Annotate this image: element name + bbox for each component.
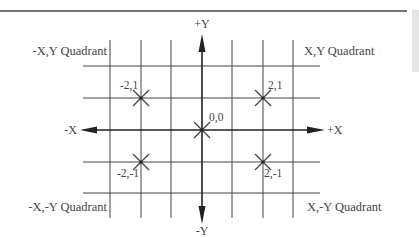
point-label: -2,-1 <box>117 167 139 180</box>
coordinate-diagram: +Y -Y -X +X -X,Y Quadrant X,Y Quadrant -… <box>0 0 419 238</box>
quadrant-label-top-left: -X,Y Quadrant <box>32 44 107 58</box>
x-axis-positive-arrow-icon <box>307 127 325 134</box>
point-label: 2,1 <box>268 79 283 92</box>
quadrant-label-top-right: X,Y Quadrant <box>304 44 375 58</box>
point-label: -2,1 <box>120 79 138 92</box>
x-axis-negative-arrow-icon <box>80 127 97 134</box>
y-axis-positive-arrow-icon <box>199 34 206 52</box>
point-label: 2,-1 <box>264 167 282 180</box>
y-axis-negative-arrow-icon <box>199 206 206 224</box>
point-label: 0,0 <box>209 111 224 124</box>
quadrant-label-bottom-right: X,-Y Quadrant <box>307 200 382 214</box>
positive-y-label: +Y <box>194 17 210 31</box>
positive-x-label: +X <box>327 123 343 137</box>
negative-y-label: -Y <box>196 224 209 238</box>
quadrant-label-bottom-left: -X,-Y Quadrant <box>28 200 107 214</box>
negative-x-label: -X <box>64 123 77 137</box>
